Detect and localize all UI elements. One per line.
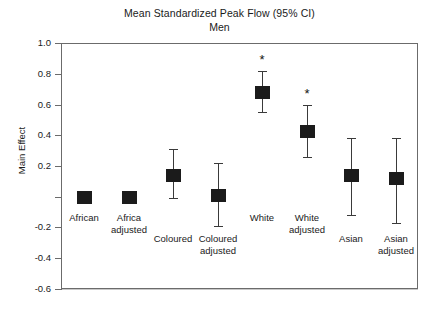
y-axis-tick-mark bbox=[55, 105, 62, 106]
error-bar-cap-lower bbox=[169, 198, 178, 199]
chart-container: Mean Standardized Peak Flow (95% CI) Men… bbox=[0, 0, 439, 311]
category-label-line1: Asian bbox=[358, 233, 434, 245]
y-axis-tick-mark bbox=[55, 227, 62, 228]
error-bar-cap-upper bbox=[392, 138, 401, 139]
chart-subtitle: Men bbox=[0, 21, 439, 33]
y-axis-tick-label: -0.4 bbox=[11, 253, 51, 263]
x-axis-category-label: Colouredadjusted bbox=[180, 233, 256, 256]
data-point-marker bbox=[389, 172, 404, 185]
x-axis-category-label: Whiteadjusted bbox=[269, 212, 345, 235]
data-point-marker bbox=[166, 169, 181, 182]
y-axis-tick-label: 0.8 bbox=[11, 69, 51, 79]
data-point-marker bbox=[77, 191, 92, 204]
y-axis-tick-mark bbox=[55, 166, 62, 167]
error-bar-cap-lower bbox=[258, 112, 267, 113]
data-point-marker bbox=[255, 86, 270, 99]
error-bar-cap-upper bbox=[214, 163, 223, 164]
y-axis-tick-label: -0.2 bbox=[11, 222, 51, 232]
significance-star-icon: * bbox=[300, 89, 314, 99]
y-axis-tick-label: 1.0 bbox=[11, 38, 51, 48]
error-bar-cap-lower bbox=[303, 157, 312, 158]
y-axis-tick-mark bbox=[55, 135, 62, 136]
significance-star-icon: * bbox=[255, 55, 269, 65]
error-bar-cap-lower bbox=[392, 223, 401, 224]
category-label-line1: Africa bbox=[91, 212, 167, 224]
data-point-marker bbox=[211, 189, 226, 202]
data-point-marker bbox=[344, 169, 359, 182]
gridline bbox=[61, 289, 418, 290]
y-axis-tick-label: 0.2 bbox=[11, 161, 51, 171]
error-bar-cap-upper bbox=[347, 138, 356, 139]
category-label-line2: adjusted bbox=[180, 245, 256, 257]
error-bar-cap-upper bbox=[169, 149, 178, 150]
y-axis-tick-label: -0.6 bbox=[11, 284, 51, 294]
y-axis-tick-mark bbox=[55, 258, 62, 259]
category-label-line1: Coloured bbox=[180, 233, 256, 245]
x-axis-category-label: Asianadjusted bbox=[358, 233, 434, 256]
data-point-marker bbox=[300, 125, 315, 138]
error-bar-cap-lower bbox=[347, 215, 356, 216]
category-label-line2: adjusted bbox=[358, 245, 434, 257]
y-axis-tick-mark bbox=[55, 289, 62, 290]
category-label-line1: White bbox=[269, 212, 345, 224]
y-axis-tick-mark bbox=[55, 43, 62, 44]
error-bar-cap-upper bbox=[303, 105, 312, 106]
x-axis-category-label: Africaadjusted bbox=[91, 212, 167, 235]
y-axis-label: Main Effect bbox=[16, 111, 27, 191]
y-axis-tick-label: 0.6 bbox=[11, 100, 51, 110]
data-point-marker bbox=[122, 191, 137, 204]
chart-title: Mean Standardized Peak Flow (95% CI) bbox=[0, 7, 439, 19]
y-axis-tick-mark bbox=[55, 74, 62, 75]
y-axis-tick-mark bbox=[55, 197, 62, 198]
error-bar-cap-upper bbox=[258, 71, 267, 72]
y-axis-tick-label: 0.4 bbox=[11, 130, 51, 140]
error-bar-cap-lower bbox=[214, 226, 223, 227]
